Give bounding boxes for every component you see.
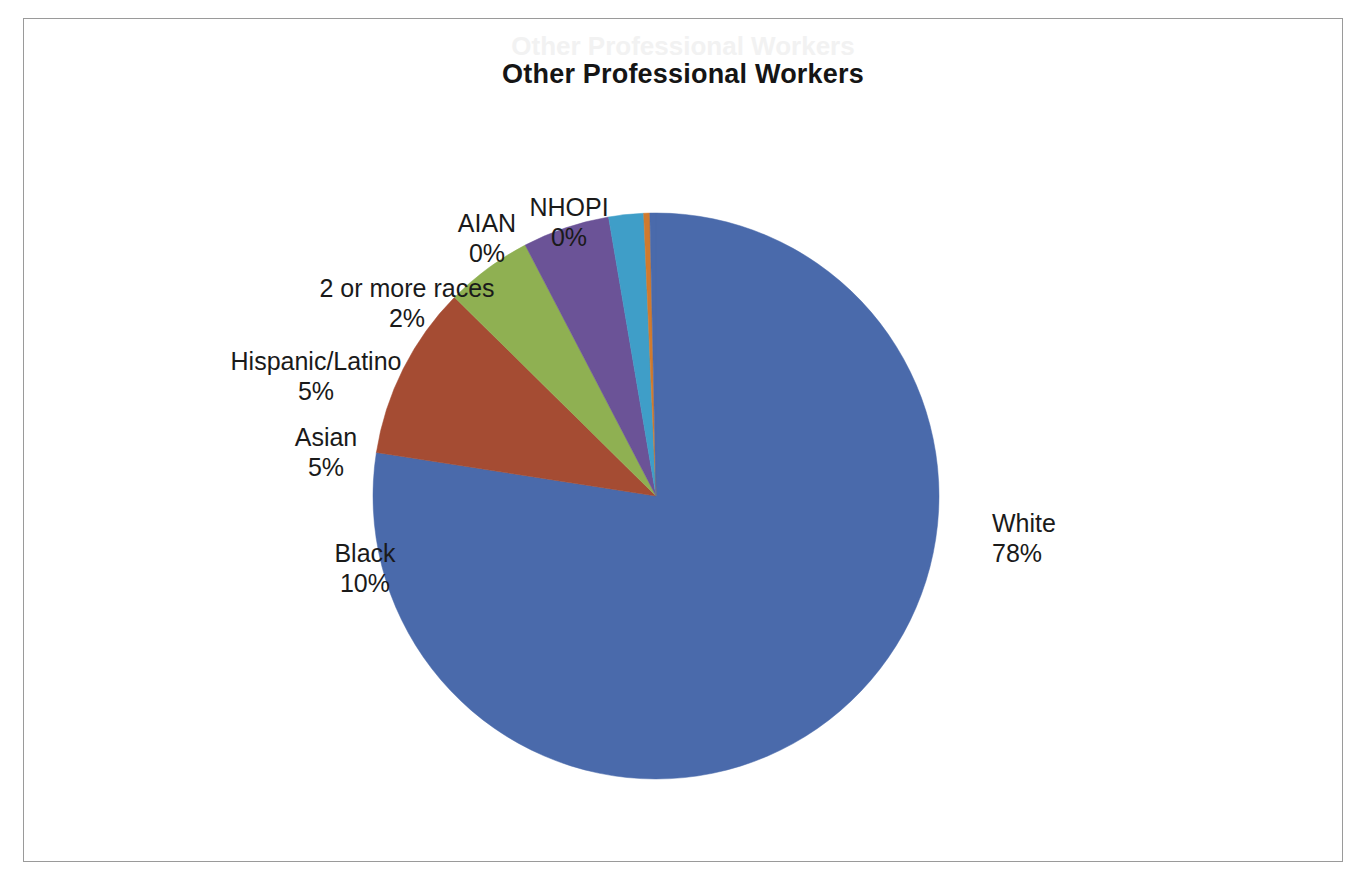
- slice-label-white-name: White: [992, 509, 1132, 539]
- slice-label-two-or-more-races-name: 2 or more races: [307, 274, 507, 304]
- slice-label-hispanic-latino-name: Hispanic/Latino: [216, 347, 416, 377]
- slice-label-black: Black 10%: [305, 539, 425, 598]
- slice-label-black-name: Black: [305, 539, 425, 569]
- slice-label-white: White 78%: [992, 509, 1132, 568]
- slice-label-nhopi: NHOPI 0%: [509, 193, 629, 252]
- slice-label-two-or-more-races: 2 or more races 2%: [307, 274, 507, 333]
- pie-chart: [24, 19, 1344, 863]
- slice-label-nhopi-name: NHOPI: [509, 193, 629, 223]
- slice-label-asian-pct: 5%: [266, 453, 386, 483]
- slice-label-white-pct: 78%: [992, 539, 1132, 569]
- chart-frame: Other Professional Workers Other Profess…: [23, 18, 1343, 862]
- slice-label-black-pct: 10%: [305, 569, 425, 599]
- slice-label-asian-name: Asian: [266, 423, 386, 453]
- slice-label-two-or-more-races-pct: 2%: [307, 304, 507, 334]
- slice-label-asian: Asian 5%: [266, 423, 386, 482]
- slice-label-hispanic-latino-pct: 5%: [216, 377, 416, 407]
- slice-label-nhopi-pct: 0%: [509, 223, 629, 253]
- slice-label-hispanic-latino: Hispanic/Latino 5%: [216, 347, 416, 406]
